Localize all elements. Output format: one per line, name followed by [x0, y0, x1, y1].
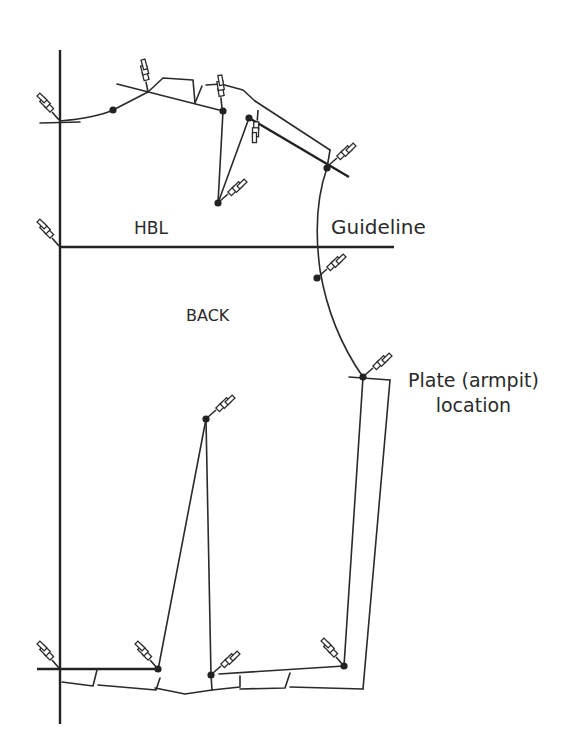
pin-icon — [365, 353, 392, 375]
pin-icon — [319, 254, 346, 276]
guideline-label: Guideline — [331, 215, 426, 239]
pin-icon — [321, 638, 343, 665]
pin-icon — [239, 110, 274, 145]
plate-label-line1: Plate (armpit) — [408, 368, 539, 393]
pin-icon — [129, 58, 161, 92]
pin-icon — [213, 651, 240, 673]
hbl-label: HBL — [134, 218, 168, 238]
plate-location-label: Plate (armpit) location — [408, 368, 539, 418]
neckline-curve — [60, 92, 148, 121]
plate-label-line2: location — [408, 393, 539, 418]
pin-icon — [329, 143, 356, 165]
pin-icon — [37, 93, 59, 120]
pin-icon — [204, 73, 237, 108]
back-label: BACK — [186, 306, 229, 325]
pin-icon — [220, 179, 247, 201]
pin-icon — [208, 395, 235, 417]
pin-icon — [37, 219, 59, 246]
pin-icon — [135, 641, 157, 668]
pin-icon — [37, 641, 59, 668]
